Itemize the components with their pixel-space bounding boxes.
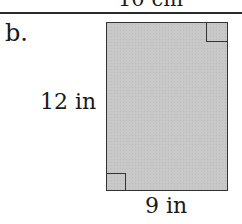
right-angle-marker-top-right-icon: [206, 23, 227, 42]
part-label: b.: [5, 19, 28, 47]
rectangle-shape: [106, 22, 228, 191]
height-label: 12 in: [40, 89, 96, 114]
width-label: 9 in: [145, 193, 187, 218]
right-angle-marker-bottom-left-icon: [107, 173, 126, 190]
divider-rule: [0, 12, 242, 14]
previous-dimension-label: 10 cm: [118, 0, 183, 11]
